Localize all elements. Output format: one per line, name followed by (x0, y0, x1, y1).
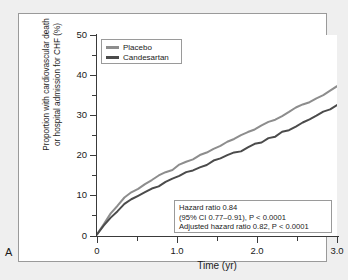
y-axis-title: Proportion with cardiovascular death or … (42, 0, 63, 180)
legend-entry-candesartan: Candesartan (106, 53, 181, 62)
y-tick-40 (90, 75, 96, 76)
x-tick-1 (177, 237, 178, 243)
legend-label-placebo: Placebo (123, 43, 152, 52)
x-tick-label-2: 2.0 (242, 245, 272, 256)
y-tick-label-0: 0 (61, 230, 87, 241)
panel-letter: A (5, 246, 13, 258)
x-tick-3 (337, 237, 338, 243)
y-tick-label-30: 30 (61, 109, 87, 120)
y-tick-30 (90, 115, 96, 116)
legend-entry-placebo: Placebo (106, 43, 181, 52)
y-tick-minor-25 (92, 135, 96, 136)
y-tick-label-10: 10 (61, 189, 87, 200)
y-tick-label-40: 40 (61, 69, 87, 80)
x-axis-title: Time (yr) (97, 260, 337, 271)
x-tick-minor-2-5 (297, 237, 298, 241)
x-tick-2 (257, 237, 258, 243)
legend-swatch-placebo (106, 46, 119, 49)
y-axis-title-line-1: Proportion with cardiovascular death (42, 0, 53, 180)
x-tick-minor-0-5 (137, 237, 138, 241)
chart-legend: Placebo Candesartan (101, 39, 182, 64)
y-tick-minor-5 (92, 215, 96, 216)
x-tick-label-1: 1.0 (162, 245, 192, 256)
y-tick-minor-45 (92, 55, 96, 56)
y-tick-50 (90, 35, 96, 36)
y-tick-0 (90, 236, 96, 237)
y-tick-20 (90, 155, 96, 156)
y-tick-label-20: 20 (61, 149, 87, 160)
y-tick-minor-15 (92, 175, 96, 176)
stats-line-adjusted-hazard-ratio: Adjusted hazard ratio 0.82, P < 0.0001 (179, 222, 331, 232)
y-tick-10 (90, 195, 96, 196)
statistics-annotation-box: Hazard ratio 0.84 (95% CI 0.77–0.91), P … (174, 200, 332, 233)
y-tick-minor-35 (92, 95, 96, 96)
y-tick-label-50: 50 (61, 29, 87, 40)
x-tick-minor-1-5 (217, 237, 218, 241)
legend-swatch-candesartan (106, 56, 119, 59)
legend-label-candesartan: Candesartan (123, 53, 169, 62)
x-tick-label-0: 0 (82, 245, 112, 256)
stats-line-confidence-interval: (95% CI 0.77–0.91), P < 0.0001 (179, 213, 331, 223)
x-tick-0 (97, 237, 98, 243)
stats-line-hazard-ratio: Hazard ratio 0.84 (179, 203, 331, 213)
x-tick-label-3: 3.0 (322, 245, 348, 256)
figure-frame: Proportion with cardiovascular death or … (18, 13, 327, 262)
